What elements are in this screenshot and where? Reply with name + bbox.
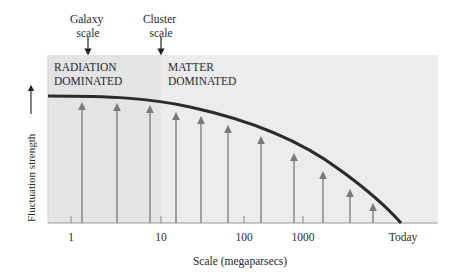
x-tick-label: 10 (155, 231, 167, 243)
cluster-scale-label: Cluster scale (143, 13, 179, 39)
x-tick-label: 1000 (292, 231, 315, 243)
galaxy-scale-label: Galaxy scale (70, 13, 106, 39)
y-axis-label: Fluctuation strength (25, 133, 37, 222)
x-axis-label: Scale (megaparsecs) (193, 255, 287, 268)
fluctuation-diagram: Galaxy scale Cluster scale RADIATION DOM… (0, 0, 459, 274)
y-axis-label-group: Fluctuation strength (25, 88, 37, 222)
x-tick-label: 1 (68, 231, 74, 243)
x-tick-label: 100 (235, 231, 253, 243)
x-tick-label-today: Today (389, 231, 418, 244)
